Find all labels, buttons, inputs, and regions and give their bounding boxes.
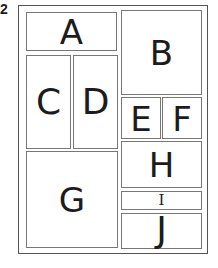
region-e-label: E — [130, 102, 151, 136]
region-b-label: B — [150, 36, 173, 70]
region-d-label: D — [82, 84, 110, 120]
region-h-label: H — [149, 148, 175, 182]
region-b: B — [121, 10, 202, 95]
region-a-label: A — [60, 15, 83, 49]
region-a: A — [26, 12, 117, 51]
region-d: D — [73, 55, 118, 149]
figure-number: 2 — [0, 2, 8, 16]
region-g-label: G — [59, 183, 85, 217]
region-c-label: C — [36, 84, 61, 120]
region-j: J — [121, 213, 202, 249]
region-f: F — [162, 97, 202, 139]
region-i-label: I — [159, 193, 165, 208]
region-f-label: F — [172, 102, 192, 136]
region-h: H — [121, 141, 202, 188]
region-i: I — [121, 191, 202, 210]
region-g: G — [26, 151, 118, 248]
region-c: C — [26, 55, 71, 149]
region-e: E — [121, 97, 161, 139]
region-j-label: J — [156, 212, 167, 248]
